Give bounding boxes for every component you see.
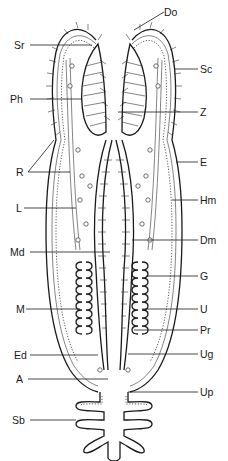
label-ug: Ug xyxy=(200,348,214,360)
label-hm: Hm xyxy=(200,194,217,206)
anatomical-diagram: Sr Ph R L Md M Ed A Sb Do Sc Z E Hm Dm G… xyxy=(0,0,228,461)
label-z: Z xyxy=(200,106,207,118)
labels-right: Do Sc Z E Hm Dm G U Pr Ug Up xyxy=(164,6,217,398)
body-wall xyxy=(46,30,182,392)
pharynx xyxy=(82,44,147,135)
label-md: Md xyxy=(10,246,25,258)
label-do: Do xyxy=(164,6,178,18)
label-e: E xyxy=(200,156,207,168)
label-ed: Ed xyxy=(14,349,27,361)
label-g: G xyxy=(200,270,208,282)
label-m: M xyxy=(16,303,25,315)
label-sr: Sr xyxy=(14,39,25,51)
label-l: L xyxy=(16,202,22,214)
label-pr: Pr xyxy=(200,324,211,336)
label-ph: Ph xyxy=(10,93,23,105)
label-sb: Sb xyxy=(12,414,25,426)
label-sc: Sc xyxy=(200,63,212,75)
longitudinal-muscles xyxy=(66,58,162,250)
label-up: Up xyxy=(200,386,214,398)
label-r: R xyxy=(16,166,24,178)
label-u: U xyxy=(200,303,208,315)
label-dm: Dm xyxy=(200,234,217,246)
gonads xyxy=(76,262,148,334)
foot-disc xyxy=(76,392,152,461)
labels-left: Sr Ph R L Md M Ed A Sb xyxy=(10,39,27,426)
label-a: A xyxy=(16,373,23,385)
midgut xyxy=(94,140,133,370)
